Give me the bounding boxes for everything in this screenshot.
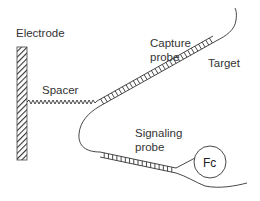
signaling-probe-label-line2: probe (135, 141, 164, 153)
signaling-probe-label-line1: Signaling (135, 127, 182, 139)
electrode-label: Electrode (16, 27, 65, 39)
target-label: Target (208, 57, 241, 69)
capture-probe-label-line2: probe (150, 51, 179, 63)
sensor-diagram: Electrode Spacer Capture probe Target Si… (0, 0, 260, 201)
spacer-label: Spacer (42, 84, 79, 96)
signaling-probe (100, 152, 195, 173)
fc-label: Fc (203, 156, 216, 170)
capture-probe-label-line1: Capture (150, 37, 191, 49)
electrode (17, 47, 27, 160)
spacer (27, 100, 97, 104)
